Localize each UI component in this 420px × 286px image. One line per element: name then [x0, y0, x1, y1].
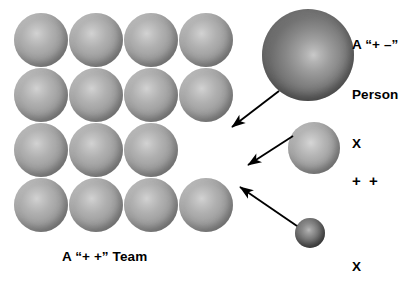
label-minus-plus-person: X A “– +” Person: [352, 226, 398, 286]
label-plus-plus: + +: [352, 138, 380, 223]
team-sphere: [124, 68, 178, 122]
label-plus-plus-line1: + +: [352, 172, 380, 189]
team-sphere: [14, 68, 68, 122]
team-sphere: [179, 68, 233, 122]
team-sphere: [69, 13, 123, 67]
team-sphere: [14, 178, 68, 232]
team-sphere: [14, 13, 68, 67]
team-sphere: [69, 68, 123, 122]
label-plus-minus-line2: Person: [352, 87, 398, 104]
arrow-from-big: [232, 91, 279, 127]
team-sphere: [69, 123, 123, 177]
team-sphere: [124, 13, 178, 67]
small-outsider-sphere: [295, 218, 325, 248]
team-sphere: [124, 178, 178, 232]
label-minus-plus-line1: X: [352, 259, 398, 276]
team-sphere: [124, 123, 178, 177]
large-outsider-sphere: [262, 9, 354, 101]
team-sphere: [179, 13, 233, 67]
arrow-from-small: [240, 187, 297, 226]
label-plus-minus-line1: A “+ –”: [352, 37, 398, 54]
team-caption: A “+ +” Team: [62, 249, 147, 265]
sphere-diagram: A “+ –” Person X + + X A “– +” Person A …: [0, 0, 420, 286]
arrow-from-mid: [248, 136, 293, 165]
team-sphere: [69, 178, 123, 232]
medium-outsider-sphere: [288, 122, 340, 174]
team-sphere: [14, 123, 68, 177]
team-sphere: [179, 178, 233, 232]
